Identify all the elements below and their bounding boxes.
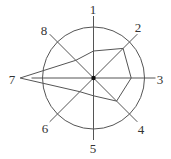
- radar-diagram: 12345678: [0, 0, 171, 159]
- axis-label-3: 3: [157, 72, 164, 87]
- axis-label-8: 8: [41, 23, 48, 38]
- axis-line-2: [94, 34, 138, 78]
- axis-label-6: 6: [42, 121, 49, 136]
- axis-line-6: [50, 78, 94, 122]
- axis-labels: 12345678: [9, 2, 164, 156]
- axis-label-2: 2: [135, 20, 142, 35]
- center-dot: [91, 76, 95, 80]
- axis-label-4: 4: [138, 122, 145, 137]
- axis-label-1: 1: [90, 2, 97, 17]
- axis-line-4: [94, 78, 138, 122]
- axis-label-7: 7: [9, 72, 16, 87]
- axis-line-8: [50, 34, 94, 78]
- axis-label-5: 5: [90, 141, 97, 156]
